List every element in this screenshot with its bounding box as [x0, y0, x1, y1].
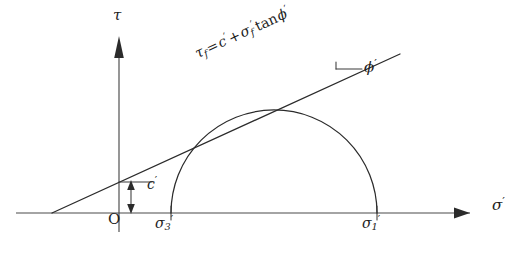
- cohesion-label: c′: [147, 176, 157, 191]
- mohr-circle-semicircle: [171, 110, 377, 213]
- sigma1-glyph: σ: [362, 215, 372, 231]
- sigma1-prime-label: σ1′: [362, 215, 380, 232]
- sigma3-prime-label: σ3′: [155, 215, 173, 232]
- friction-angle-label: ϕ′: [364, 58, 377, 75]
- failure-envelope-line: [52, 54, 400, 213]
- phi-prime-mark: ′: [374, 56, 377, 70]
- sigma-prime-axis-label: σ′: [492, 196, 505, 213]
- sigma1-prime-mark: ′: [378, 213, 380, 226]
- sigma-axis-prime: ′: [502, 194, 505, 208]
- sigma3-prime-mark: ′: [171, 213, 173, 226]
- cohesion-prime-mark: ′: [155, 174, 157, 187]
- origin-label: O: [108, 212, 120, 227]
- cohesion-glyph: c: [147, 176, 155, 192]
- sigma3-glyph: σ: [155, 215, 165, 231]
- mohr-coulomb-figure: τ σ′ O σ3′ σ1′ c′ ϕ′ τf=c′+σf′tanϕ′: [0, 0, 524, 259]
- horizontal-axis-arrowhead: [454, 208, 470, 219]
- tau-axis-label: τ: [113, 8, 121, 23]
- diagram-canvas: [0, 0, 524, 259]
- vertical-axis-arrowhead: [114, 36, 124, 58]
- sigma-axis-glyph: σ: [492, 196, 502, 214]
- phi-glyph: ϕ: [364, 58, 374, 76]
